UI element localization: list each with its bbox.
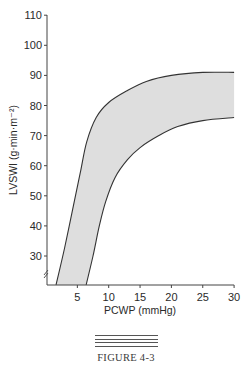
x-tick-label: 10 (103, 291, 115, 303)
chart: 3040506070809010011051015202530 PCWP (mm… (0, 0, 252, 330)
caption-rules (95, 335, 158, 349)
x-tick-label: 20 (165, 291, 177, 303)
y-tick-label: 80 (30, 100, 42, 112)
rule-line (95, 339, 158, 340)
y-tick-label: 100 (24, 39, 42, 51)
y-tick-label: 90 (30, 69, 42, 81)
y-tick-label: 70 (30, 130, 42, 142)
rule-line (95, 335, 158, 336)
figure-caption: FIGURE 4-3 (0, 352, 252, 363)
band-fill (56, 72, 234, 285)
x-tick-label: 30 (228, 291, 240, 303)
axes: 3040506070809010011051015202530 (24, 9, 241, 303)
y-tick-label: 110 (24, 9, 42, 21)
rule-line (95, 346, 158, 347)
y-tick-label: 50 (30, 190, 42, 202)
y-axis-title: LVSWI (g·min·m⁻²) (7, 105, 19, 195)
x-axis-title: PCWP (mmHg) (104, 304, 176, 316)
y-tick-label: 60 (30, 160, 42, 172)
x-tick-label: 25 (197, 291, 209, 303)
shaded-band (56, 72, 234, 285)
y-tick-label: 30 (30, 250, 42, 262)
rule-line (95, 342, 158, 343)
y-tick-label: 40 (30, 220, 42, 232)
x-tick-label: 15 (134, 291, 146, 303)
x-tick-label: 5 (74, 291, 80, 303)
